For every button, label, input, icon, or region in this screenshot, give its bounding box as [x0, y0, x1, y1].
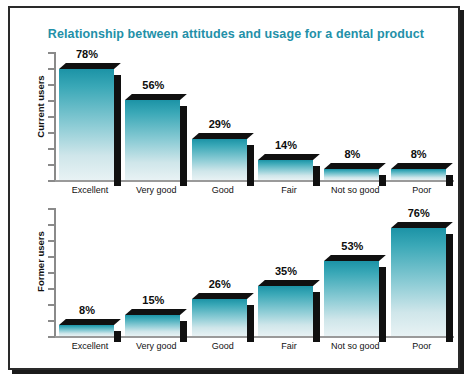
- plot-area-top: 78%56%29%14%8%8%: [56, 46, 454, 180]
- y-axis-tick-former-users: [48, 336, 55, 338]
- bar-value-label: 8%: [321, 148, 383, 160]
- chart-figure: Relationship between attitudes and usage…: [0, 0, 470, 380]
- y-axis-tick-current-users: [48, 84, 55, 86]
- x-axis-category-label: Not so good: [318, 185, 392, 195]
- bar-current-users-good[interactable]: [192, 139, 247, 180]
- x-axis-category-label: Not so good: [318, 341, 392, 351]
- bar-group: 15%: [122, 208, 188, 336]
- y-axis-tick-current-users: [48, 52, 55, 54]
- bar-value-label: 29%: [189, 118, 251, 130]
- bar-value-label: 14%: [255, 139, 317, 151]
- bar-former-users-fair[interactable]: [258, 286, 313, 336]
- x-axis-category-label: Good: [186, 185, 260, 195]
- y-axis-title-former-users: Former users: [35, 202, 46, 322]
- bar-group: 76%: [388, 208, 454, 336]
- x-axis-category-label: Fair: [252, 185, 326, 195]
- y-axis-tick-former-users: [48, 320, 55, 322]
- chart-frame: Relationship between attitudes and usage…: [8, 6, 460, 370]
- bar-former-users-very-good[interactable]: [125, 315, 180, 336]
- bar-value-label: 35%: [255, 265, 317, 277]
- x-axis-category-label: Poor: [385, 341, 459, 351]
- y-axis-title-current-users: Current users: [35, 47, 46, 167]
- x-axis-category-label: Fair: [252, 341, 326, 351]
- y-axis-tick-former-users: [48, 240, 55, 242]
- bar-value-label: 26%: [189, 278, 251, 290]
- bar-group: 8%: [56, 208, 122, 336]
- panel-current-users: Current users 78%56%29%14%8%8% Excellent…: [10, 46, 462, 198]
- bar-group: 29%: [189, 52, 255, 180]
- bar-value-label: 8%: [388, 148, 450, 160]
- bar-former-users-poor[interactable]: [391, 228, 446, 336]
- bar-group: 56%: [122, 52, 188, 180]
- x-axis-category-label: Excellent: [53, 185, 127, 195]
- y-axis-tick-current-users: [48, 132, 55, 134]
- bar-value-label: 56%: [122, 79, 184, 91]
- bar-group: 53%: [321, 208, 387, 336]
- bar-value-label: 76%: [388, 207, 450, 219]
- bar-former-users-not-so-good[interactable]: [324, 261, 379, 336]
- bar-value-label: 8%: [56, 304, 118, 316]
- y-axis-tick-former-users: [48, 256, 55, 258]
- bar-value-label: 78%: [56, 48, 118, 60]
- panel-former-users: Former users 8%15%26%35%53%76% Excellent…: [10, 204, 462, 354]
- y-axis-tick-former-users: [48, 208, 55, 210]
- y-axis-tick-former-users: [48, 224, 55, 226]
- bar-current-users-very-good[interactable]: [125, 100, 180, 180]
- bar-former-users-good[interactable]: [192, 299, 247, 336]
- x-axis-category-label: Very good: [119, 341, 193, 351]
- y-axis-tick-current-users: [48, 148, 55, 150]
- bar-group: 78%: [56, 52, 122, 180]
- chart-title: Relationship between attitudes and usage…: [10, 27, 462, 41]
- bar-value-label: 53%: [321, 240, 383, 252]
- bar-group: 26%: [189, 208, 255, 336]
- x-axis-category-label: Good: [186, 341, 260, 351]
- plot-area-bottom: 8%15%26%35%53%76%: [56, 204, 454, 336]
- y-axis-tick-former-users: [48, 272, 55, 274]
- bar-former-users-excellent[interactable]: [59, 325, 114, 336]
- y-axis-tick-current-users: [48, 100, 55, 102]
- bar-current-users-not-so-good[interactable]: [324, 169, 379, 180]
- y-axis-tick-current-users: [48, 68, 55, 70]
- y-axis-tick-current-users: [48, 180, 55, 182]
- bar-group: 8%: [321, 52, 387, 180]
- bar-group: 14%: [255, 52, 321, 180]
- y-axis-tick-former-users: [48, 288, 55, 290]
- y-axis-tick-former-users: [48, 304, 55, 306]
- bar-current-users-fair[interactable]: [258, 160, 313, 180]
- x-axis-category-label: Excellent: [53, 341, 127, 351]
- bar-current-users-poor[interactable]: [391, 169, 446, 180]
- bar-group: 8%: [388, 52, 454, 180]
- bar-group: 35%: [255, 208, 321, 336]
- bar-value-label: 15%: [122, 294, 184, 306]
- x-axis-category-label: Poor: [385, 185, 459, 195]
- y-axis-tick-current-users: [48, 116, 55, 118]
- bar-current-users-excellent[interactable]: [59, 69, 114, 180]
- x-axis-category-label: Very good: [119, 185, 193, 195]
- y-axis-tick-current-users: [48, 164, 55, 166]
